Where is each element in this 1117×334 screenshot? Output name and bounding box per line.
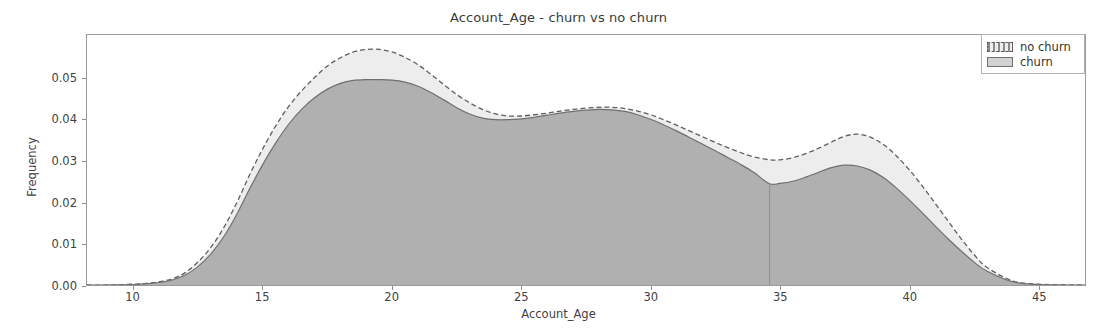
y-tick-mark <box>82 286 86 287</box>
legend-item-churn[interactable]: churn <box>987 54 1079 69</box>
y-tick-label: 0.05 <box>17 71 77 85</box>
area-churn <box>87 80 1085 285</box>
y-tick-label: 0.00 <box>17 279 77 293</box>
legend-label-churn: churn <box>1020 55 1053 69</box>
x-tick-label: 20 <box>362 290 422 304</box>
x-tick-label: 25 <box>491 290 551 304</box>
x-tick-label: 40 <box>880 290 940 304</box>
kde-plot-svg <box>87 35 1085 285</box>
x-tick-mark <box>651 286 652 290</box>
y-tick-mark <box>82 119 86 120</box>
plot-area <box>86 34 1086 286</box>
x-tick-mark <box>133 286 134 290</box>
x-tick-mark <box>780 286 781 290</box>
x-tick-mark <box>392 286 393 290</box>
x-tick-label: 35 <box>750 290 810 304</box>
chart-legend[interactable]: no churn churn <box>981 34 1085 74</box>
y-axis-label: Frequency <box>25 87 39 247</box>
x-axis-label: Account_Age <box>0 307 1117 321</box>
y-tick-mark <box>82 203 86 204</box>
legend-label-no-churn: no churn <box>1020 40 1071 54</box>
page-title: Account_Age - churn vs no churn <box>0 10 1117 25</box>
legend-swatch-icon-churn <box>987 57 1013 67</box>
y-tick-mark <box>82 161 86 162</box>
x-tick-mark <box>262 286 263 290</box>
x-tick-label: 30 <box>621 290 681 304</box>
x-tick-label: 45 <box>1009 290 1069 304</box>
x-tick-mark <box>910 286 911 290</box>
y-tick-mark <box>82 78 86 79</box>
legend-swatch-icon-no-churn <box>987 42 1013 52</box>
x-tick-mark <box>521 286 522 290</box>
x-tick-label: 10 <box>103 290 163 304</box>
chart-figure: Account_Age - churn vs no churn 0.000.01… <box>0 0 1117 334</box>
legend-item-no-churn[interactable]: no churn <box>987 39 1079 54</box>
x-tick-label: 15 <box>232 290 292 304</box>
x-tick-mark <box>1039 286 1040 290</box>
y-tick-mark <box>82 244 86 245</box>
